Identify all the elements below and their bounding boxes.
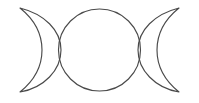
triple-moon-svg: Triple Moon Symbol xyxy=(0,0,199,103)
background-rect xyxy=(0,0,199,103)
triple-moon-symbol-canvas: Triple Moon Symbol xyxy=(0,0,199,103)
